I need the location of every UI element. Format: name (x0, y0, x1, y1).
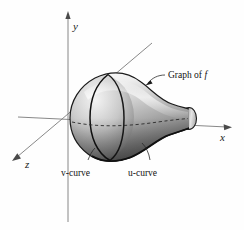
z-axis-label: z (24, 158, 30, 170)
graph-of-f-label: Graph of f (168, 70, 208, 80)
graph-of-f-prefix: Graph of (168, 70, 204, 80)
u-curve-label: u-curve (128, 168, 157, 178)
v-curve-label: v-curve (61, 168, 90, 178)
body-bottom-shadow (60, 118, 200, 170)
x-axis-label: x (219, 131, 225, 143)
y-axis-label: y (72, 20, 78, 32)
x-axis-arrowhead (224, 124, 232, 130)
vase-surface (60, 73, 200, 170)
figure-canvas: y x z Graph of f v-curve u-curve (0, 0, 244, 230)
graph-of-f-arrowhead (145, 80, 152, 85)
graph-of-f-symbol: f (204, 70, 208, 80)
y-axis-arrowhead (65, 11, 70, 19)
